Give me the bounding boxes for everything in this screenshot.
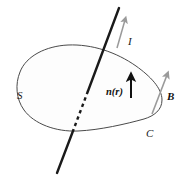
label-field: B xyxy=(166,90,174,102)
label-surface: S xyxy=(17,89,23,101)
wire-segment-lower xyxy=(57,131,73,173)
current-direction-arrow xyxy=(117,20,125,48)
label-current: I xyxy=(127,35,133,47)
label-curve: C xyxy=(146,127,154,139)
label-normal: n(r) xyxy=(106,86,123,98)
figure-canvas: I S n(r) B C xyxy=(0,0,186,176)
physics-figure: I S n(r) B C xyxy=(0,0,186,176)
